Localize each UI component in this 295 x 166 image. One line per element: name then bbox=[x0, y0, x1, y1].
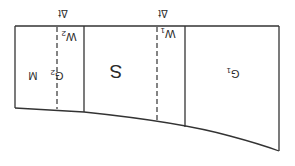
svg-text:W1: W1 bbox=[160, 26, 175, 40]
label-S: S bbox=[110, 61, 123, 82]
grain-boundary-diagram: Δt Δt W2 W1 G2 M S G1 bbox=[0, 0, 295, 166]
label-G1: G1 bbox=[226, 66, 240, 80]
outline bbox=[15, 26, 279, 151]
svg-text:Δt: Δt bbox=[158, 8, 168, 19]
svg-text:Δt: Δt bbox=[58, 8, 68, 19]
svg-text:M: M bbox=[28, 70, 37, 82]
label-M: M bbox=[28, 70, 37, 82]
label-W1: W1 bbox=[160, 26, 175, 40]
svg-text:G1: G1 bbox=[226, 66, 240, 80]
bottom-curved-edge bbox=[15, 108, 279, 151]
svg-text:S: S bbox=[110, 61, 123, 82]
label-delta-t-2: Δt bbox=[58, 8, 68, 19]
label-delta-t-1: Δt bbox=[158, 8, 168, 19]
svg-text:W2: W2 bbox=[61, 29, 76, 43]
label-W2: W2 bbox=[61, 29, 76, 43]
